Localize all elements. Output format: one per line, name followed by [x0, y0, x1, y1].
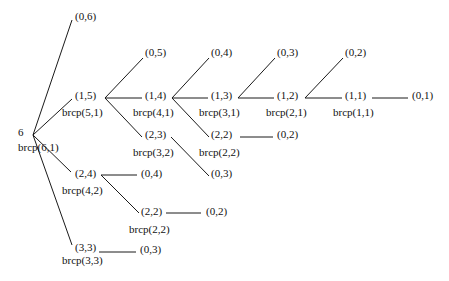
- node-2-2-a: (2,2): [211, 128, 232, 140]
- node-2-2-b: (2,2): [141, 205, 162, 217]
- edge-12-02: [305, 58, 343, 98]
- node-0-2-b: (0,2): [345, 46, 366, 58]
- node-0-3-a: (0,3): [277, 46, 298, 58]
- node-0-4-a: (0,4): [211, 46, 232, 58]
- node-1-3: (1,3): [211, 89, 232, 101]
- node-2-2-a-call: brcp(2,2): [199, 146, 240, 158]
- node-0-4-b: (0,4): [141, 167, 162, 179]
- recursion-tree-diagram: 6 brcp(6,1) (0,6) (1,5) brcp(5,1) (2,4) …: [0, 0, 449, 281]
- node-0-2-a: (0,2): [277, 128, 298, 140]
- node-1-3-call: brcp(3,1): [199, 106, 240, 118]
- node-1-2: (1,2): [277, 89, 298, 101]
- node-2-2-b-call: brcp(2,2): [129, 223, 170, 235]
- edge-14-04: [172, 58, 209, 98]
- node-2-4: (2,4): [75, 167, 96, 179]
- node-1-5-call: brcp(5,1): [62, 106, 103, 118]
- node-0-3-b: (0,3): [211, 167, 232, 179]
- node-0-1: (0,1): [412, 89, 433, 101]
- edge-13-03: [238, 58, 275, 98]
- node-1-5: (1,5): [75, 89, 96, 101]
- root-value: 6: [18, 126, 24, 138]
- node-1-2-call: brcp(2,1): [266, 106, 307, 118]
- node-1-1: (1,1): [345, 89, 366, 101]
- node-0-3-c: (0,3): [140, 243, 161, 255]
- node-1-4-call: brcp(4,1): [133, 106, 174, 118]
- node-1-4: (1,4): [145, 89, 166, 101]
- node-1-1-call: brcp(1,1): [333, 106, 374, 118]
- edge-24-22: [101, 175, 139, 213]
- node-0-5: (0,5): [145, 46, 166, 58]
- node-3-3-call: brcp(3,3): [62, 254, 103, 266]
- node-2-3-call: brcp(3,2): [133, 146, 174, 158]
- node-2-4-call: brcp(4,2): [62, 184, 103, 196]
- node-0-6: (0,6): [75, 10, 96, 22]
- root-call: brcp(6,1): [18, 141, 59, 153]
- node-3-3: (3,3): [75, 241, 96, 253]
- edge-15-05: [105, 58, 143, 98]
- node-2-3: (2,3): [145, 128, 166, 140]
- node-0-2-c: (0,2): [206, 205, 227, 217]
- tree-edges: [0, 0, 449, 281]
